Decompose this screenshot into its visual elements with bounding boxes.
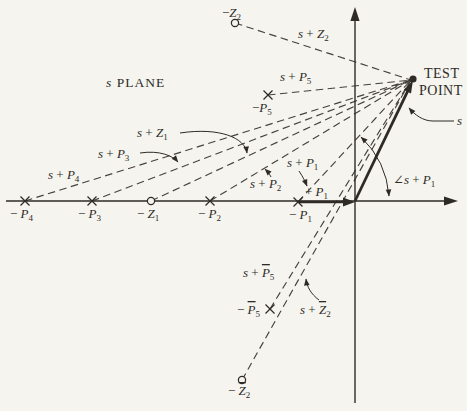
label-neg-p1-label: − P1: [289, 207, 312, 224]
test-point-marker: [409, 75, 416, 82]
label-s-plus-z2-conj: s + Z2: [300, 302, 331, 319]
label-test-point-line1: TEST: [424, 66, 459, 81]
label-neg-z1-label: − Z1: [137, 206, 159, 223]
label-neg-p4-label: − P4: [10, 206, 34, 223]
label-plus-p1: + P1: [305, 184, 328, 201]
imaginary-axis: [350, 7, 359, 403]
label-neg-p2-label: − P2: [198, 206, 221, 223]
angle-arc: [361, 137, 389, 196]
zero-marker-neg-z1: [147, 197, 154, 204]
vector-line-neg-p2-to-test-point: [210, 80, 411, 201]
s-plane-diagram: s PLANETESTPOINT−Z2s + Z2s + P5−P5ss + Z…: [0, 0, 467, 411]
leader-s-plus-p3: [140, 152, 178, 162]
label-test-point-line2: POINT: [419, 83, 463, 98]
label-s-plus-p4: s + P4: [48, 167, 80, 184]
label-s-label: s: [457, 113, 462, 128]
label-neg-z2: −Z2: [222, 5, 241, 22]
label-s-plus-z1: s + Z1: [137, 125, 168, 142]
pole-marker-neg-p5-conj: [266, 305, 275, 314]
label-neg-p3-label: − P3: [78, 206, 102, 223]
label-neg-p5-conj-label: − P5: [237, 302, 261, 319]
label-s-plus-z2: s + Z2: [298, 26, 329, 43]
diagram-svg: s PLANETESTPOINT−Z2s + Z2s + P5−P5ss + Z…: [0, 0, 467, 411]
label-neg-z2-conj-label: − Z2: [228, 383, 250, 400]
label-s-plus-p5: s + P5: [280, 69, 312, 86]
vector-line-neg-p5-conj-to-test-point: [270, 80, 411, 309]
vector-line-neg-p4-to-test-point: [25, 80, 411, 201]
label-s-plus-p3: s + P3: [98, 146, 130, 163]
leader-s-label: [409, 108, 454, 121]
label-s-plus-p2: s + P2: [250, 176, 281, 193]
leader-s-plus-z2-conj: [306, 279, 319, 300]
label-neg-p5: −P5: [252, 100, 272, 117]
label-s-plus-p5-conj: s + P5: [243, 265, 275, 282]
label-s-plus-p1: s + P1: [287, 155, 318, 172]
real-axis: [6, 196, 458, 205]
label-s-plane: s PLANE: [106, 75, 165, 90]
label-angle-s-plus-p1: ∠s + P1: [393, 172, 435, 189]
